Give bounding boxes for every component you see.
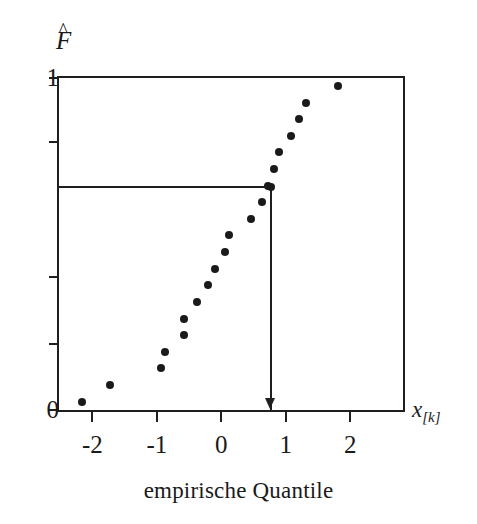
x-axis-label-subscript: [k] bbox=[422, 409, 440, 425]
data-point bbox=[302, 99, 310, 107]
plot-area bbox=[57, 76, 405, 412]
data-point bbox=[334, 82, 342, 90]
y-axis-tick-1 bbox=[49, 343, 58, 345]
data-point bbox=[193, 298, 201, 306]
x-axis-tick-4 bbox=[349, 412, 351, 422]
x-axis-tick-label-1: -1 bbox=[135, 432, 179, 457]
x-axis-tick-0 bbox=[91, 412, 93, 422]
data-point bbox=[180, 331, 188, 339]
y-axis-tick-2 bbox=[49, 276, 58, 278]
frame-top-border bbox=[57, 76, 405, 78]
data-point bbox=[180, 315, 188, 323]
data-point bbox=[247, 215, 255, 223]
data-point bbox=[221, 248, 229, 256]
guide-line-vertical bbox=[270, 187, 272, 410]
y-axis-tick-3 bbox=[49, 141, 58, 143]
guide-line-horizontal bbox=[57, 186, 271, 188]
data-point bbox=[270, 165, 278, 173]
data-point bbox=[275, 148, 283, 156]
data-point bbox=[225, 231, 233, 239]
y-axis-tick-label-1: 0 bbox=[47, 397, 60, 422]
guide-arrow-down-icon bbox=[265, 398, 275, 409]
x-axis-tick-label-0: -2 bbox=[70, 432, 114, 457]
x-axis-tick-3 bbox=[285, 412, 287, 422]
y-axis-line bbox=[57, 76, 59, 412]
data-point bbox=[78, 398, 86, 406]
x-axis-tick-1 bbox=[156, 412, 158, 422]
data-point bbox=[211, 265, 219, 273]
x-axis-tick-label-3: 1 bbox=[264, 432, 308, 457]
circumflex-accent-icon: ^ bbox=[58, 20, 67, 40]
data-point bbox=[106, 381, 114, 389]
data-point bbox=[204, 281, 212, 289]
data-point bbox=[157, 364, 165, 372]
x-axis-label-base: x bbox=[412, 397, 422, 422]
data-point bbox=[287, 132, 295, 140]
highlighted-quantile-point bbox=[267, 183, 275, 191]
frame-right-border bbox=[403, 76, 405, 412]
x-axis-label: x[k] bbox=[412, 398, 441, 425]
data-point bbox=[161, 348, 169, 356]
x-axis-line bbox=[57, 410, 405, 412]
figure-caption: empirische Quantile bbox=[0, 478, 477, 504]
data-point bbox=[295, 115, 303, 123]
y-axis-label: ^ F bbox=[56, 22, 71, 53]
data-point bbox=[258, 198, 266, 206]
quantile-plot-figure: ^ F x[k] empirische Quantile 10 -2-1012 bbox=[0, 0, 477, 524]
x-axis-tick-label-4: 2 bbox=[328, 432, 372, 457]
x-axis-tick-2 bbox=[220, 412, 222, 422]
x-axis-tick-label-2: 0 bbox=[199, 432, 243, 457]
y-axis-tick-label-0: 1 bbox=[47, 65, 60, 90]
